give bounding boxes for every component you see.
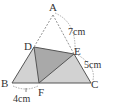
measure-ae: 7cm: [68, 26, 85, 37]
arc-bf: [13, 86, 38, 89]
label-a: A: [49, 1, 57, 13]
label-e: E: [74, 45, 81, 57]
label-f: F: [38, 86, 44, 98]
label-d: D: [24, 40, 32, 52]
triangle-diagram: A B C D E F 7cm 5cm 4cm: [0, 0, 114, 108]
side-ad-dashed: [34, 15, 53, 47]
label-c: C: [91, 78, 98, 90]
measure-bf: 4cm: [13, 93, 30, 104]
label-b: B: [1, 77, 8, 89]
measure-ec: 5cm: [84, 59, 101, 70]
